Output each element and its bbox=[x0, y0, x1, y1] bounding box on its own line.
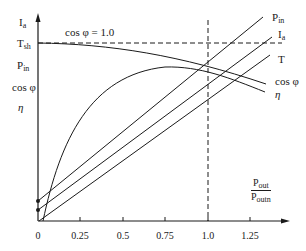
tick-label: 0 bbox=[36, 230, 41, 241]
tick-label: 0.75 bbox=[156, 230, 174, 241]
cos-phi-unity-annotation: cos φ = 1.0 bbox=[65, 27, 114, 38]
y-label-ia: Ia bbox=[19, 17, 26, 31]
tick-label: 1.0 bbox=[202, 230, 215, 241]
x-axis-arrow-icon bbox=[281, 219, 290, 224]
label-t: T bbox=[278, 54, 285, 65]
x-axis-denominator: Poutn bbox=[251, 191, 271, 204]
y-axis-arrow-icon bbox=[36, 13, 41, 22]
label-eta: η bbox=[275, 89, 280, 100]
diagram-canvas bbox=[0, 0, 306, 251]
y-label-pin: Pin bbox=[17, 60, 29, 74]
label-i-a: Ia bbox=[278, 29, 285, 43]
label-p-in: Pin bbox=[272, 12, 284, 26]
x-axis-numerator: Pout bbox=[251, 177, 271, 191]
i-a-curve bbox=[38, 37, 272, 210]
y-label-eta: η bbox=[18, 102, 23, 113]
eta-curve bbox=[43, 67, 265, 221]
cos-phi-curve bbox=[38, 43, 266, 84]
label-cos-phi: cos φ bbox=[275, 76, 299, 87]
i-a-intercept-dot bbox=[36, 208, 40, 212]
tick-label: 1.25 bbox=[241, 230, 259, 241]
t-curve bbox=[39, 55, 270, 221]
y-label-cosphi: cos φ bbox=[12, 82, 36, 93]
tick-label: 0.5 bbox=[117, 230, 130, 241]
x-axis-label: Pout Poutn bbox=[251, 177, 271, 204]
tick-label: 0.25 bbox=[71, 230, 89, 241]
y-label-tsh: Tsh bbox=[17, 38, 31, 52]
p-in-intercept-dot bbox=[36, 199, 40, 203]
